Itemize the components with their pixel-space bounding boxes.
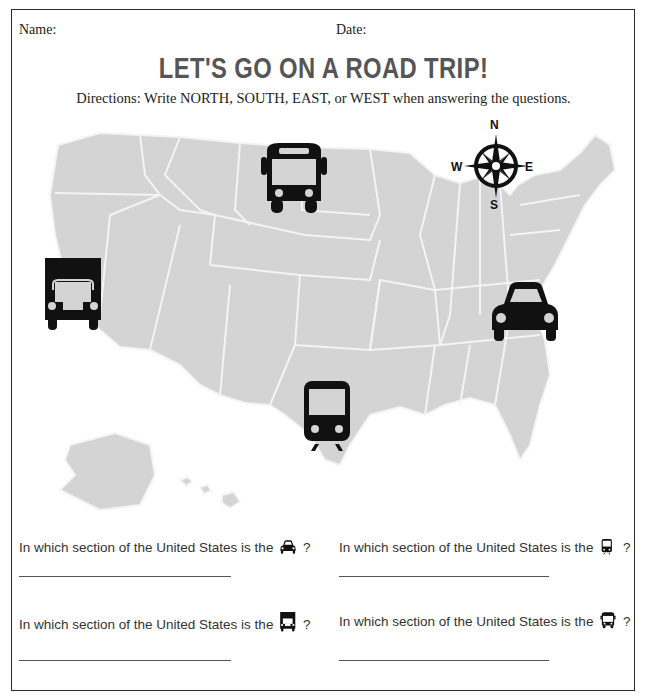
compass-rose: N S W E bbox=[450, 120, 542, 212]
date-label: Date: bbox=[336, 22, 366, 38]
train-icon bbox=[600, 539, 616, 555]
answer-line-2[interactable] bbox=[339, 576, 549, 577]
page-title: LET'S GO ON A ROAD TRIP! bbox=[58, 52, 589, 85]
truck-icon bbox=[280, 612, 296, 628]
compass-east: E bbox=[525, 160, 533, 174]
answer-line-1[interactable] bbox=[19, 576, 231, 577]
name-label: Name: bbox=[19, 22, 56, 38]
bus-icon bbox=[600, 612, 616, 628]
train-icon bbox=[303, 381, 353, 453]
compass-south: S bbox=[490, 198, 498, 212]
truck-icon bbox=[45, 258, 103, 332]
answer-line-3[interactable] bbox=[19, 660, 231, 661]
answer-line-4[interactable] bbox=[339, 660, 549, 661]
question-4: In which section of the United States is… bbox=[339, 612, 630, 629]
question-2: In which section of the United States is… bbox=[339, 539, 630, 555]
directions-text: Directions: Write NORTH, SOUTH, EAST, or… bbox=[0, 90, 647, 107]
question-1: In which section of the United States is… bbox=[19, 539, 310, 555]
bus-icon bbox=[259, 143, 329, 215]
car-icon bbox=[280, 539, 296, 555]
question-3: In which section of the United States is… bbox=[19, 612, 310, 632]
compass-west: W bbox=[451, 160, 462, 174]
car-icon bbox=[490, 282, 560, 342]
compass-north: N bbox=[490, 118, 499, 132]
